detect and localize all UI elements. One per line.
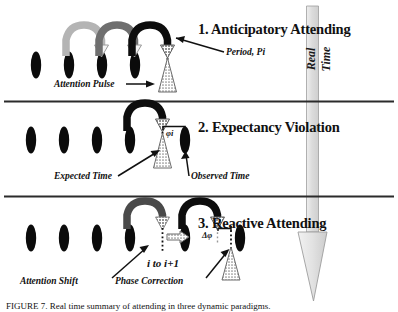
- panel-2-title: 2. Expectancy Violation: [198, 119, 340, 136]
- figure-text-layer: 1. Anticipatory Attending 2. Expectancy …: [0, 0, 398, 312]
- panel-3-title: 3. Reactive Attending: [198, 215, 326, 232]
- figure-caption: FIGURE 7. Real time summary of attending…: [6, 301, 394, 312]
- panel-1-pulse-label: Attention Pulse: [54, 79, 114, 89]
- panel-3-attention-shift-label: Attention Shift: [20, 276, 78, 286]
- panel-3-phase-correction-label: Phase Correction: [115, 276, 183, 286]
- panel-2-observed-label: Observed Time: [191, 171, 249, 181]
- figure-dynamic-attending: 1. Anticipatory Attending 2. Expectancy …: [0, 0, 398, 312]
- panel-2-expected-label: Expected Time: [54, 171, 112, 181]
- panel-2-phi-label: φi: [166, 128, 173, 138]
- panel-1-period-label: Period, Pi: [226, 47, 265, 57]
- panel-3-index-shift-label: i to i+1: [147, 257, 179, 269]
- real-time-label: Real Time: [304, 36, 334, 82]
- panel-3-delta-phi-label: Δφ: [202, 230, 212, 240]
